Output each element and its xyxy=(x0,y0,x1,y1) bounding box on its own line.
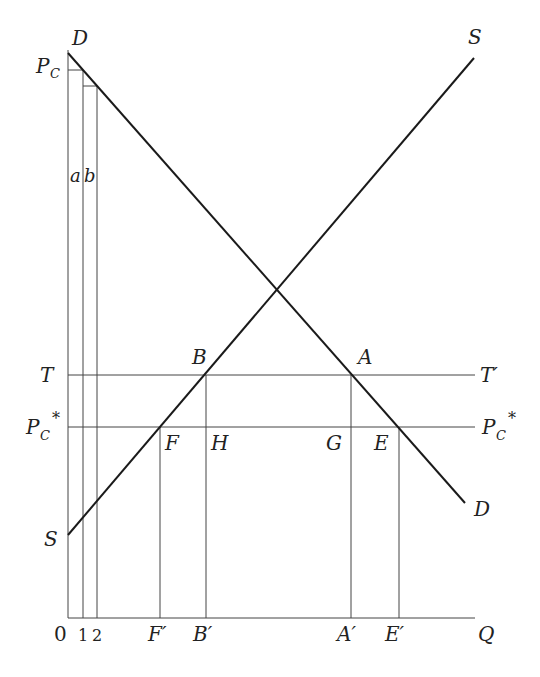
demand-curve xyxy=(68,53,465,503)
quantity-axis-label: Q xyxy=(478,622,494,646)
strip-label-a: a xyxy=(70,165,81,186)
svg-text:C: C xyxy=(496,428,506,443)
point-label-e: E xyxy=(373,431,389,455)
point-label-g: G xyxy=(326,431,342,455)
svg-text:*: * xyxy=(508,409,516,428)
point-label-a: A xyxy=(356,345,372,369)
tariff-label-right: T′ xyxy=(480,363,498,387)
svg-text:C: C xyxy=(50,66,60,81)
x-tick-2: 2 xyxy=(92,626,102,645)
x-label-e-prime: E′ xyxy=(384,622,405,646)
point-label-h: H xyxy=(210,431,229,455)
svg-text:P: P xyxy=(35,54,50,78)
svg-text:P: P xyxy=(481,415,496,439)
x-tick-1: 1 xyxy=(78,626,88,645)
x-label-b-prime: B′ xyxy=(192,622,213,646)
x-label-f-prime: F′ xyxy=(147,622,167,646)
demand-label-top: D xyxy=(71,26,88,50)
supply-label-top: S xyxy=(468,25,482,49)
svg-text:P: P xyxy=(25,415,40,439)
origin-label: 0 xyxy=(54,622,67,646)
strip-label-b: b xyxy=(84,165,96,186)
point-label-b: B xyxy=(191,345,207,369)
demand-label-bottom: D xyxy=(473,497,490,521)
point-label-f: F xyxy=(164,431,180,455)
supply-label-bottom: S xyxy=(44,527,58,551)
supply-demand-diagram: D D S S P C a b T T′ P C * P C * B A F H… xyxy=(0,0,540,677)
pc-label: P C xyxy=(35,54,60,81)
supply-curve xyxy=(68,58,474,535)
svg-text:C: C xyxy=(40,428,50,443)
tariff-label-left: T xyxy=(40,363,55,387)
pc-star-label-left: P C * xyxy=(25,409,60,443)
svg-text:*: * xyxy=(52,409,60,428)
pc-star-label-right: P C * xyxy=(481,409,516,443)
x-label-a-prime: A′ xyxy=(335,622,356,646)
